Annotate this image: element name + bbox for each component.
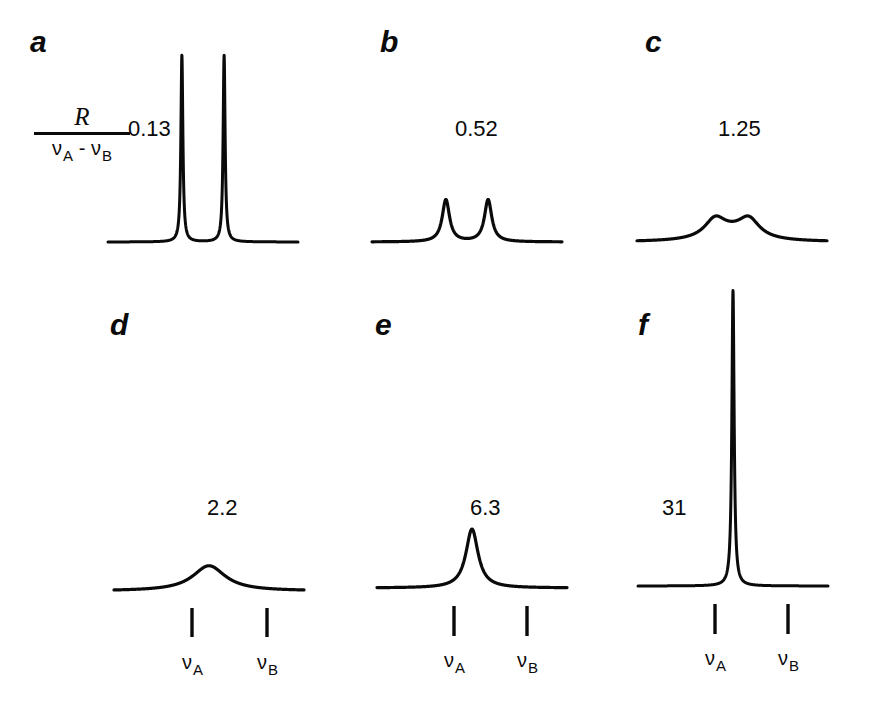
frequency-label-nu-b-d: νB [257,652,278,677]
nu-glyph: ν [444,649,454,671]
frequency-label-nu-b-e: νB [517,650,538,675]
spectrum-trace-e [355,290,589,602]
frequency-markers-d [180,606,279,639]
nu-subscript: B [788,657,799,674]
frequency-label-nu-a-f: νA [705,648,726,673]
spectrum-trace-a [86,45,320,256]
lineshape-curve-f [638,291,828,586]
nmr-exchange-lineshape-figure: R νA - νB a0.13b0.52c1.25d2.2νAνBe6.3νAν… [0,0,885,703]
nu-a-subscript: A [62,147,73,164]
spectrum-trace-f [616,285,850,600]
nu-subscript: B [527,659,538,676]
spectrum-trace-d [92,290,326,605]
lineshape-curve-b [372,199,562,241]
nu-subscript: A [192,661,203,678]
nu-subscript: B [267,661,278,678]
nu-glyph: ν [182,651,192,673]
lineshape-curve-a [108,55,298,242]
nu-glyph: ν [517,649,527,671]
nu-a-symbol: ν [52,137,62,159]
frequency-label-nu-a-e: νA [444,650,465,675]
spectrum-trace-b [350,45,584,256]
nu-subscript: A [715,657,726,674]
nu-glyph: ν [778,647,788,669]
lineshape-curve-e [377,529,567,588]
nu-glyph: ν [705,647,715,669]
nu-subscript: A [454,659,465,676]
lineshape-curve-c [637,216,827,241]
frequency-markers-e [442,604,539,638]
frequency-markers-f [703,602,800,636]
panel-letter-a: a [30,27,47,57]
frequency-label-nu-b-f: νB [778,648,799,673]
spectrum-trace-c [615,45,849,256]
lineshape-curve-d [114,566,304,590]
nu-glyph: ν [257,651,267,673]
frequency-label-nu-a-d: νA [182,652,203,677]
